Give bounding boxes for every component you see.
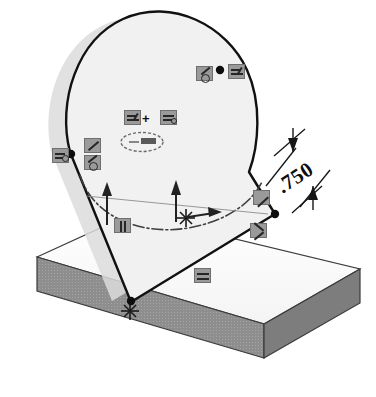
cad-sketch-canvas: .750 +: [0, 0, 376, 397]
extension-line-upper: [274, 129, 305, 156]
vertex-right[interactable]: [271, 210, 279, 218]
relation-badge-coincident-top[interactable]: [228, 64, 245, 79]
vertex-top-right[interactable]: [216, 66, 224, 74]
construction-ellipse-marker[interactable]: [119, 131, 165, 153]
relation-badge-tangent-left-lower[interactable]: [84, 155, 101, 170]
relation-badge-vertex-right-lower[interactable]: [250, 223, 267, 238]
relation-badge-parallel-base[interactable]: [194, 268, 211, 283]
relation-plus-symbol: +: [142, 112, 150, 125]
vertex-bottom[interactable]: [127, 297, 135, 305]
scene-svg: [0, 0, 376, 397]
relation-badge-tangent-left-upper[interactable]: [84, 138, 101, 153]
relation-badge-equal-center-left[interactable]: [124, 110, 141, 125]
dimension-arrow-lower: [308, 186, 318, 210]
relation-badge-tangent-right-top[interactable]: [253, 190, 270, 205]
relation-badge-coincident-left[interactable]: [52, 148, 69, 163]
relation-badge-equal-center-right[interactable]: [160, 110, 177, 125]
relation-badge-horizontal-bottom[interactable]: [114, 218, 131, 233]
relation-badge-tangent-top[interactable]: [196, 66, 213, 81]
